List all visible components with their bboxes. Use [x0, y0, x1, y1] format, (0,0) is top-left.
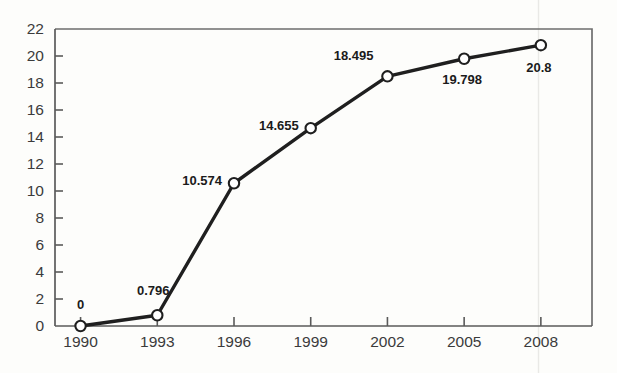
y-tick-label: 4	[35, 263, 44, 280]
x-tick-label: 2002	[370, 333, 404, 350]
y-tick-label: 10	[27, 182, 45, 199]
y-tick-label: 18	[27, 74, 44, 91]
y-tick-label: 16	[27, 101, 44, 118]
x-tick-label: 1990	[63, 333, 98, 350]
y-tick-label: 8	[35, 209, 44, 226]
data-point-marker	[306, 123, 316, 133]
x-tick-label: 2005	[447, 333, 481, 350]
data-point-marker	[382, 71, 392, 81]
data-point-label: 14.655	[259, 118, 299, 133]
y-tick-label: 12	[27, 155, 44, 172]
data-point-label: 10.574	[182, 173, 223, 188]
data-point-marker	[459, 54, 469, 64]
x-tick-label: 1996	[217, 333, 251, 350]
data-point-label: 18.495	[334, 48, 374, 63]
data-point-marker	[75, 321, 85, 331]
chart-background	[0, 0, 617, 373]
data-point-marker	[536, 40, 546, 50]
y-tick-label: 6	[35, 236, 44, 253]
line-chart: 0246810121416182022 19901993199619992002…	[0, 0, 617, 373]
y-tick-label: 22	[27, 20, 44, 37]
data-point-label: 20.8	[526, 60, 551, 75]
x-tick-label: 1993	[140, 333, 174, 350]
x-tick-label: 1999	[293, 333, 327, 350]
y-tick-label: 14	[27, 128, 45, 145]
data-point-label: 0.796	[137, 283, 170, 298]
chart-canvas: 0246810121416182022 19901993199619992002…	[0, 0, 617, 373]
x-tick-label: 2008	[524, 333, 558, 350]
data-point-label: 19.798	[442, 72, 482, 87]
data-point-marker	[152, 310, 162, 320]
y-tick-label: 2	[35, 290, 44, 307]
data-point-label: 0	[77, 297, 84, 312]
data-point-marker	[229, 178, 239, 188]
y-tick-label: 0	[35, 317, 44, 334]
y-tick-label: 20	[27, 47, 45, 64]
